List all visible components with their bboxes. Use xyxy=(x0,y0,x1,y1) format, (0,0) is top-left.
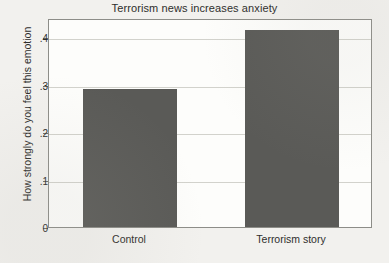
y-axis-tick-label: .1 xyxy=(26,175,48,186)
y-axis-tick-label: .2 xyxy=(26,128,48,139)
y-axis-tick-label: 0 xyxy=(26,223,48,234)
y-axis-tick-label: .3 xyxy=(26,80,48,91)
y-axis: 0.1.2.3.4 xyxy=(0,0,48,263)
y-axis-tick-label: .4 xyxy=(26,33,48,44)
bar xyxy=(83,89,176,227)
x-axis-tick-label: Terrorism story xyxy=(256,233,325,245)
chart-figure: Terrorism news increases anxiety How str… xyxy=(0,0,389,263)
chart-title: Terrorism news increases anxiety xyxy=(0,2,389,14)
bar xyxy=(245,30,338,227)
plot-area xyxy=(48,19,372,228)
x-axis-tick-label: Control xyxy=(112,233,146,245)
